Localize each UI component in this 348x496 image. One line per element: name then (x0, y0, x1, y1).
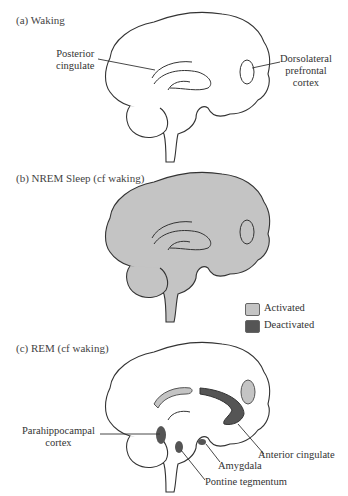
label-line: cortex (280, 77, 332, 89)
label-parahippocampal: Parahippocampal cortex (22, 425, 95, 449)
panel-title-rem: (c) REM (cf waking) (16, 342, 109, 354)
panel-title-nrem: (b) NREM Sleep (cf waking) (16, 172, 144, 184)
label-line: Posterior (56, 48, 94, 60)
legend-activated-swatch (245, 303, 260, 316)
brain-waking (98, 12, 280, 162)
label-line: cingulate (56, 60, 94, 72)
label-anterior-cingulate: Anterior cingulate (258, 449, 335, 461)
label-pontine-tegmentum: Pontine tegmentum (205, 476, 287, 488)
legend-activated-label: Activated (264, 302, 305, 314)
brain-nrem (106, 172, 270, 322)
label-amygdala: Amygdala (218, 460, 262, 472)
label-line: Dorsolateral (280, 53, 332, 65)
label-line: cortex (22, 437, 95, 449)
label-dlpfc: Dorsolateral prefrontal cortex (280, 53, 332, 89)
panel-title-waking: (a) Waking (16, 14, 65, 26)
label-line: prefrontal (280, 65, 332, 77)
label-posterior-cingulate: Posterior cingulate (56, 48, 94, 72)
label-line: Parahippocampal (22, 425, 95, 437)
legend-deactivated-swatch (245, 320, 260, 333)
legend-deactivated-label: Deactivated (264, 319, 314, 331)
